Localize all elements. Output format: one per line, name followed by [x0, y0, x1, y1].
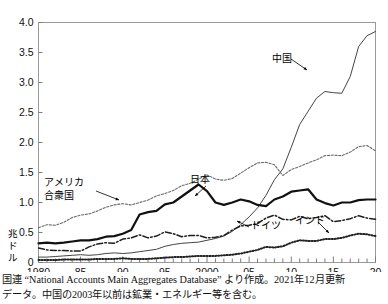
y-tick-label: 2.0 — [19, 136, 34, 148]
line-chart: 00.51.01.52.02.53.03.54.0 19808590952000… — [0, 0, 388, 272]
y-tick-label: 1.0 — [19, 196, 34, 208]
source-note: 国連 “National Accounts Main Aggregates Da… — [2, 272, 388, 302]
plot-frame — [39, 23, 376, 263]
unit-label-char: 兆 — [8, 228, 18, 239]
y-tick-label: 3.5 — [19, 46, 34, 58]
japan-label: 日本 — [190, 173, 210, 185]
usa-label: アメリカ — [44, 177, 84, 188]
y-axis-tick-labels: 00.51.01.52.02.53.03.54.0 — [19, 16, 34, 268]
china-label: 中国 — [272, 52, 292, 64]
source-note-line1: 国連 “National Accounts Main Aggregates Da… — [2, 272, 388, 287]
germany-label: ドイツ — [251, 220, 281, 231]
usa-label: 合衆国 — [44, 189, 74, 201]
y-tick-label: 1.5 — [19, 166, 34, 178]
source-note-line2: データ。中国の2003年以前は鉱業・エネルギー等を含む。 — [2, 287, 388, 302]
y-tick-label: 2.5 — [19, 106, 34, 118]
figure-container: 00.51.01.52.02.53.03.54.0 19808590952000… — [0, 0, 388, 304]
unit-label-char: ル — [8, 252, 18, 263]
y-tick-label: 3.0 — [19, 76, 34, 88]
y-axis-unit-label: 兆ドル — [8, 228, 18, 263]
unit-label-char: ド — [8, 240, 18, 251]
y-tick-label: 4.0 — [19, 16, 34, 28]
y-tick-label: 0.5 — [19, 226, 34, 238]
